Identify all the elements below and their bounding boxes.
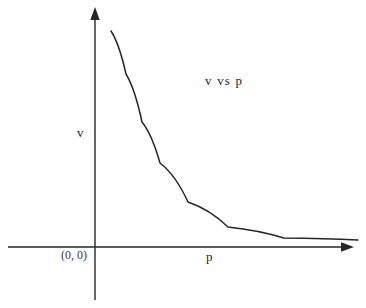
plot-area [0, 0, 366, 308]
y-axis-label: v [77, 126, 84, 139]
origin-label: (0, 0) [61, 249, 87, 261]
x-axis-arrowhead-icon [341, 242, 354, 251]
data-curve-v-vs-p [111, 31, 358, 240]
y-axis-arrowhead-icon [90, 7, 99, 20]
chart-title: v vs p [205, 74, 243, 87]
x-axis [8, 242, 354, 251]
y-axis [90, 7, 99, 300]
chart-figure: v vs p v p (0, 0) [0, 0, 366, 308]
x-axis-label: p [206, 250, 213, 263]
